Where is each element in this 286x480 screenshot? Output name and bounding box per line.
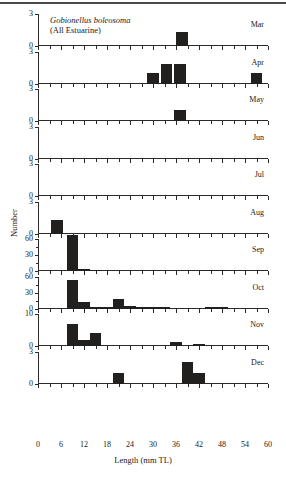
x-tick-label: 48 [218, 440, 226, 449]
x-tick-label: 30 [149, 440, 157, 449]
panel-month-label: Jul [255, 170, 264, 179]
bar [78, 269, 90, 271]
x-tick [61, 271, 62, 275]
x-tick [257, 384, 258, 387]
x-tick [176, 346, 177, 350]
x-tick [96, 121, 97, 124]
bar [216, 307, 228, 309]
bar [124, 306, 136, 309]
x-tick [38, 271, 39, 275]
y-axis-line [38, 127, 39, 159]
panel-sep: 03060Sep [38, 239, 268, 271]
x-tick [211, 121, 212, 124]
x-tick [96, 84, 97, 87]
x-tick [199, 309, 200, 313]
x-tick [188, 309, 189, 312]
x-tick [176, 234, 177, 238]
x-tick [119, 384, 120, 387]
y-axis-title: Number [9, 183, 19, 263]
x-tick [234, 309, 235, 312]
x-tick [61, 196, 62, 200]
x-tick [176, 384, 177, 388]
panel-month-label: Nov [250, 320, 264, 329]
x-tick [142, 309, 143, 312]
x-tick [222, 271, 223, 275]
x-tick [257, 309, 258, 312]
x-tick-label: 24 [126, 440, 134, 449]
bar [205, 307, 217, 309]
y-tick [35, 277, 38, 278]
x-tick [96, 159, 97, 162]
bar [67, 235, 79, 271]
x-tick [176, 159, 177, 163]
x-tick [61, 346, 62, 350]
x-tick [38, 196, 39, 200]
x-tick [153, 384, 154, 388]
x-tick [257, 196, 258, 199]
x-tick [130, 84, 131, 88]
x-tick [176, 84, 177, 88]
x-tick [96, 346, 97, 349]
panel-month-label: Jun [253, 133, 264, 142]
y-tick-label: 30 [25, 251, 33, 259]
bar [251, 73, 263, 84]
x-tick [222, 346, 223, 350]
y-tick-minor [36, 301, 38, 302]
x-tick [153, 196, 154, 200]
y-tick-label: 3 [29, 10, 33, 18]
x-tick [84, 346, 85, 350]
y-tick-minor [36, 247, 38, 248]
bar [90, 333, 102, 346]
x-tick [96, 46, 97, 49]
x-tick [188, 234, 189, 237]
x-tick [234, 346, 235, 349]
x-tick [268, 384, 269, 388]
y-tick [35, 46, 38, 47]
x-tick [119, 121, 120, 124]
y-tick [35, 352, 38, 353]
x-tick [153, 121, 154, 125]
x-tick [188, 159, 189, 162]
x-tick [234, 271, 235, 274]
header-rule [0, 2, 286, 4]
x-tick [84, 84, 85, 88]
y-tick-label: 10 [25, 310, 33, 318]
x-tick [130, 309, 131, 313]
x-tick [61, 309, 62, 313]
x-tick [245, 121, 246, 125]
x-tick [211, 384, 212, 387]
y-tick [35, 14, 38, 15]
x-tick [96, 309, 97, 312]
y-tick-minor [36, 263, 38, 264]
x-tick [268, 309, 269, 313]
x-tick [38, 159, 39, 163]
x-axis-title: Length (mm TL) [0, 455, 286, 465]
x-tick [130, 46, 131, 50]
x-tick [142, 346, 143, 349]
x-tick [73, 121, 74, 124]
x-tick [199, 121, 200, 125]
x-tick [107, 384, 108, 388]
x-tick [61, 159, 62, 163]
x-tick [245, 196, 246, 200]
x-tick [61, 121, 62, 125]
x-tick [84, 159, 85, 163]
x-tick [73, 159, 74, 162]
y-tick-label: 30 [25, 289, 33, 297]
x-tick [211, 234, 212, 237]
bar [67, 280, 79, 308]
x-tick [222, 309, 223, 313]
bar [193, 373, 205, 384]
x-tick [211, 309, 212, 312]
bar [136, 307, 148, 309]
x-tick [199, 196, 200, 200]
x-tick [222, 46, 223, 50]
y-tick [35, 346, 38, 347]
x-tick [142, 196, 143, 199]
x-tick [107, 234, 108, 238]
x-tick [84, 384, 85, 388]
y-axis-line [38, 14, 39, 46]
figure-container: Gobionellus boleosoma (All Estuarine) 03… [0, 0, 286, 480]
bar [113, 373, 125, 384]
x-tick [50, 346, 51, 349]
